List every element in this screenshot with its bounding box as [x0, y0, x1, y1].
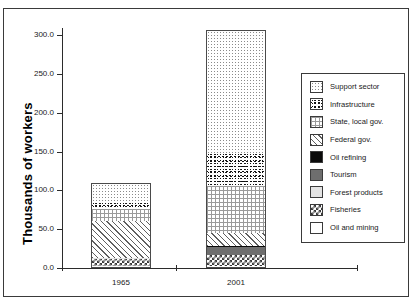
x-tick-right: [357, 265, 358, 271]
x-tick-left: [62, 265, 63, 271]
legend-label-infrastructure: Infrastructure: [330, 100, 375, 109]
legend: Support sector Infrastructure State, loc…: [301, 73, 405, 243]
legend-label-state-local-gov: State, local gov.: [330, 117, 383, 126]
y-axis-title: Thousands of workers: [20, 102, 35, 245]
segment-1965-fisheries: [91, 258, 151, 266]
chart-figure: 0.0 50.0 100.0 150.0 200.0 250.0 300.0 T…: [0, 0, 413, 306]
legend-swatch-federal-gov-icon: [310, 134, 323, 146]
legend-swatch-tourism-icon: [310, 169, 323, 181]
y-tick-100: [57, 190, 63, 191]
y-tick-300: [57, 35, 63, 36]
segment-1965-state-local-gov: [91, 209, 151, 221]
legend-label-fisheries: Fisheries: [330, 205, 361, 214]
segment-1965-oil-and-mining: [91, 266, 151, 268]
legend-item-fisheries[interactable]: Fisheries: [306, 201, 400, 219]
legend-swatch-forest-products-icon: [310, 186, 323, 198]
legend-item-support-sector[interactable]: Support sector: [306, 78, 400, 96]
y-tick-label-300: 300.0: [10, 31, 54, 39]
legend-label-federal-gov: Federal gov.: [330, 135, 372, 144]
legend-swatch-fisheries-icon: [310, 204, 323, 216]
segment-1965-support-sector: [91, 183, 151, 201]
segment-2001-fisheries: [206, 255, 266, 266]
segment-2001-state-local-gov: [206, 186, 266, 233]
segment-2001-tourism: [206, 247, 266, 256]
legend-swatch-oil-and-mining-icon: [310, 222, 323, 234]
segment-1965-federal-gov: [91, 221, 151, 258]
bar-1965[interactable]: [91, 0, 151, 306]
x-tick-mid: [176, 265, 177, 271]
segment-1965-infrastructure: [91, 202, 151, 210]
legend-label-oil-and-mining: Oil and mining: [330, 223, 379, 232]
legend-label-forest-products: Forest products: [330, 188, 383, 197]
legend-swatch-infrastructure-icon: [310, 98, 323, 110]
legend-label-tourism: Tourism: [330, 170, 357, 179]
y-tick-label-0: 0.0: [10, 264, 54, 272]
segment-1965-forest-products: [91, 258, 151, 259]
y-tick-250: [57, 74, 63, 75]
legend-item-oil-and-mining[interactable]: Oil and mining: [306, 219, 400, 237]
segment-2001-oil-and-mining: [206, 266, 266, 268]
legend-swatch-state-local-gov-icon: [310, 116, 323, 128]
y-tick-150: [57, 152, 63, 153]
y-tick-50: [57, 229, 63, 230]
segment-2001-infrastructure: [206, 153, 266, 186]
legend-item-oil-refining[interactable]: Oil refining: [306, 148, 400, 166]
bar-2001[interactable]: [206, 0, 266, 306]
legend-item-forest-products[interactable]: Forest products: [306, 184, 400, 202]
legend-item-state-local-gov[interactable]: State, local gov.: [306, 113, 400, 131]
legend-label-support-sector: Support sector: [330, 82, 379, 91]
legend-label-oil-refining: Oil refining: [330, 153, 366, 162]
segment-2001-oil-refining: [206, 246, 266, 247]
y-tick-200: [57, 113, 63, 114]
legend-item-federal-gov[interactable]: Federal gov.: [306, 131, 400, 149]
legend-swatch-support-sector-icon: [310, 81, 323, 93]
segment-2001-federal-gov: [206, 233, 266, 246]
y-tick-label-250: 250.0: [10, 70, 54, 78]
legend-swatch-oil-refining-icon: [310, 151, 323, 163]
legend-item-tourism[interactable]: Tourism: [306, 166, 400, 184]
segment-2001-support-sector: [206, 30, 266, 153]
legend-item-infrastructure[interactable]: Infrastructure: [306, 96, 400, 114]
y-axis-line: [62, 28, 63, 269]
